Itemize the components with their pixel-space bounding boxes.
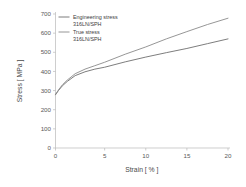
y-tick-label: 600 (41, 29, 52, 36)
chart-canvas: 0100200300400500600700 05101520 Engineer… (0, 0, 246, 187)
x-tick-label: 20 (225, 152, 232, 159)
legend-label-1: True stress (73, 29, 100, 35)
x-axis-title: Strain [ % ] (125, 166, 158, 174)
y-tick-label: 500 (41, 48, 52, 55)
legend-label-0: Engineering stress (73, 14, 118, 20)
y-tick-label: 0 (48, 144, 52, 151)
y-tick-label: 700 (41, 10, 52, 17)
y-tick-label: 300 (41, 87, 52, 94)
chart-background (0, 0, 246, 187)
y-axis-title: Stress [ MPa ] (16, 60, 24, 103)
stress-strain-chart: 0100200300400500600700 05101520 Engineer… (0, 0, 246, 187)
x-tick-label: 10 (142, 152, 149, 159)
legend-sublabel-0: 316LN/SPH (73, 21, 102, 27)
x-tick-label: 15 (183, 152, 190, 159)
x-tick-label: 0 (54, 152, 58, 159)
y-tick-label: 400 (41, 68, 52, 75)
legend-sublabel-1: 316LN/SPH (73, 36, 102, 42)
y-tick-label: 100 (41, 125, 52, 132)
y-tick-label: 200 (41, 106, 52, 113)
x-tick-label: 5 (103, 152, 107, 159)
